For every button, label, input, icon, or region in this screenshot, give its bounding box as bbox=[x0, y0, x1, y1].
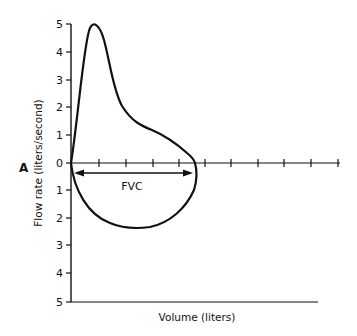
fvc-label: FVC bbox=[121, 180, 143, 193]
y-tick-label: 5 bbox=[56, 18, 63, 31]
y-tick-label: 4 bbox=[56, 46, 63, 59]
flow-volume-loop-chart: 5 4 3 2 1 0 1 2 3 4 5 FVC A Flow rate (l… bbox=[0, 0, 357, 336]
y-tick-label: 2 bbox=[56, 212, 63, 225]
y-tick-label: 3 bbox=[56, 239, 63, 252]
y-tick-labels: 5 4 3 2 1 0 1 2 3 4 5 bbox=[56, 18, 63, 309]
y-tick-label: 1 bbox=[56, 184, 63, 197]
y-tick-label: 0 bbox=[56, 157, 63, 170]
fvc-arrow bbox=[74, 170, 193, 177]
panel-label: A bbox=[19, 161, 29, 175]
x-axis-title: Volume (liters) bbox=[159, 311, 236, 323]
y-tick-label: 3 bbox=[56, 74, 63, 87]
y-tick-label: 2 bbox=[56, 101, 63, 114]
y-tick-label: 5 bbox=[56, 296, 63, 309]
y-tick-label: 1 bbox=[56, 129, 63, 142]
expiratory-curve bbox=[71, 24, 195, 163]
y-tick-label: 4 bbox=[56, 267, 63, 280]
y-axis-title: Flow rate (liters/second) bbox=[32, 99, 44, 226]
